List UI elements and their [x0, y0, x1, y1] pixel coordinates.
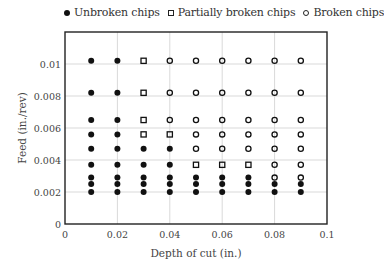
unbroken-point [114, 117, 120, 123]
unbroken-point [88, 162, 94, 168]
unbroken-point [167, 175, 173, 181]
unbroken-point [114, 175, 120, 181]
data-points [88, 58, 304, 195]
unbroken-point [219, 189, 225, 195]
unbroken-point [88, 117, 94, 123]
x-tick-label: 0.06 [212, 229, 233, 240]
broken-point [298, 146, 303, 151]
y-tick-label: 0.01 [40, 59, 61, 70]
broken-point [246, 117, 251, 122]
x-tick-label: 0.1 [319, 229, 334, 240]
broken-point [246, 132, 251, 137]
partially-broken-point [141, 132, 146, 137]
unbroken-point [193, 181, 199, 187]
unbroken-point [245, 181, 251, 187]
broken-point [193, 58, 198, 63]
unbroken-point [167, 181, 173, 187]
unbroken-point [88, 58, 94, 64]
broken-point [193, 146, 198, 151]
partially-broken-point [141, 117, 146, 122]
unbroken-point [88, 90, 94, 96]
broken-point [298, 175, 303, 180]
x-tick-label: 0 [62, 229, 68, 240]
unbroken-point [272, 189, 278, 195]
broken-point [193, 132, 198, 137]
partially-broken-point [246, 162, 251, 167]
broken-point [298, 132, 303, 137]
unbroken-point [114, 90, 120, 96]
unbroken-point [114, 131, 120, 137]
unbroken-point [88, 181, 94, 187]
y-tick-label: 0.008 [34, 91, 61, 102]
unbroken-point [114, 189, 120, 195]
y-axis-label: Feed (in./rev) [16, 92, 28, 164]
unbroken-point [272, 181, 278, 187]
unbroken-point [88, 175, 94, 181]
x-axis-ticks: 00.020.040.060.080.1 [62, 229, 335, 240]
broken-point [193, 90, 198, 95]
unbroken-point [88, 131, 94, 137]
broken-point [298, 90, 303, 95]
unbroken-point [219, 181, 225, 187]
x-axis-label: Depth of cut (in.) [150, 247, 241, 259]
broken-point [246, 146, 251, 151]
broken-point [298, 162, 303, 167]
partially-broken-point [141, 90, 146, 95]
x-tick-label: 0.04 [159, 229, 180, 240]
unbroken-point [141, 189, 147, 195]
broken-point [298, 58, 303, 63]
grid-lines [65, 32, 327, 224]
broken-point [193, 117, 198, 122]
unbroken-point [193, 189, 199, 195]
y-tick-label: 0.002 [34, 187, 61, 198]
unbroken-point [114, 181, 120, 187]
x-tick-label: 0.02 [107, 229, 128, 240]
y-tick-label: 0.004 [34, 155, 61, 166]
unbroken-point [167, 162, 173, 168]
broken-point [298, 117, 303, 122]
unbroken-point [114, 146, 120, 152]
y-tick-label: 0 [55, 219, 61, 230]
unbroken-point [193, 175, 199, 181]
x-tick-label: 0.08 [264, 229, 285, 240]
unbroken-point [114, 58, 120, 64]
unbroken-point [141, 146, 147, 152]
y-axis-ticks: 00.0020.0040.0060.0080.01 [34, 59, 61, 230]
partially-broken-point [141, 58, 146, 63]
unbroken-point [167, 189, 173, 195]
unbroken-point [167, 146, 173, 152]
unbroken-point [141, 175, 147, 181]
unbroken-point [88, 146, 94, 152]
broken-point [246, 58, 251, 63]
y-tick-label: 0.006 [34, 123, 61, 134]
unbroken-point [141, 162, 147, 168]
unbroken-point [245, 189, 251, 195]
unbroken-point [219, 175, 225, 181]
unbroken-point [114, 162, 120, 168]
partially-broken-point [193, 162, 198, 167]
broken-point [246, 90, 251, 95]
unbroken-point [298, 181, 304, 187]
unbroken-point [141, 181, 147, 187]
unbroken-point [245, 175, 251, 181]
unbroken-point [88, 189, 94, 195]
unbroken-point [298, 189, 304, 195]
